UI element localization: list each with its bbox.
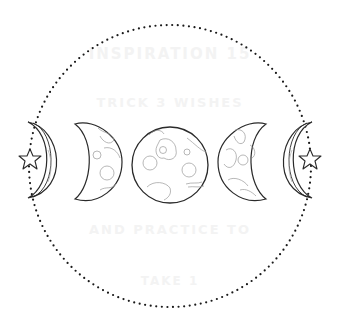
waning-gibbous-icon bbox=[218, 123, 266, 201]
waxing-gibbous-icon bbox=[75, 123, 122, 201]
moon-phase-illustration bbox=[0, 0, 340, 334]
full-moon-icon bbox=[132, 127, 208, 203]
